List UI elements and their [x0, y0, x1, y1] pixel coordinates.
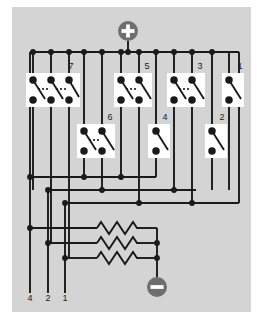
node-top-g7s2 [48, 49, 54, 55]
node-top-g7s3 [66, 49, 72, 55]
contact-bottom [66, 97, 72, 103]
contact-bottom [30, 97, 36, 103]
contact-top [136, 77, 142, 83]
contact-bottom [48, 97, 54, 103]
ellipsis-group-6 [89, 139, 99, 141]
plus-vertical [126, 25, 130, 38]
node-top-g7s1 [30, 49, 36, 55]
contact-bottom [189, 97, 195, 103]
ellipsis-group-5 [126, 88, 136, 90]
contact-top [48, 77, 54, 83]
node-r2-right [154, 240, 160, 246]
label-group-4: 4 [162, 112, 167, 122]
contact-bottom [118, 97, 124, 103]
panel-group-2 [205, 124, 227, 158]
label-group-5: 5 [144, 61, 149, 71]
ellipsis-group-3 [179, 88, 189, 90]
circuit-svg: 7 5 3 1 6 4 2 4 2 1 [0, 0, 263, 327]
contact-top [99, 128, 105, 134]
contact-bottom [136, 97, 142, 103]
label-group-3: 3 [197, 61, 202, 71]
node-bus2-left [45, 187, 51, 193]
node-r2-left [45, 240, 51, 246]
node-top-g3s2 [189, 49, 195, 55]
node-r3-right [154, 255, 160, 261]
node-bus3-left [62, 200, 68, 206]
contact-bottom [153, 148, 159, 154]
label-group-7: 7 [68, 61, 73, 71]
contact-top [30, 77, 36, 83]
node-top-positive [125, 49, 131, 55]
node-bus1-g6s1 [81, 174, 87, 180]
node-bus3-g3s2 [189, 200, 195, 206]
negative-terminal[interactable] [147, 277, 167, 297]
schematic-figure: 7 5 3 1 6 4 2 4 2 1 [0, 0, 263, 327]
label-group-1: 1 [237, 61, 242, 71]
contact-bottom [171, 97, 177, 103]
node-top-g4s1 [153, 49, 159, 55]
schematic-canvas: 7 5 3 1 6 4 2 4 2 1 [0, 0, 263, 327]
contact-bottom [226, 97, 232, 103]
label-output-1: 1 [62, 293, 67, 303]
node-bus1-left [27, 174, 33, 180]
node-bus2-g6s2 [99, 187, 105, 193]
node-top-g2s1 [209, 49, 215, 55]
node-bus2-g3s1 [171, 187, 177, 193]
node-top-g6s1 [81, 49, 87, 55]
contact-top [153, 128, 159, 134]
node-top-g3s1 [171, 49, 177, 55]
positive-terminal[interactable] [118, 21, 138, 41]
contact-top [171, 77, 177, 83]
contact-bottom [209, 148, 215, 154]
contact-top [189, 77, 195, 83]
contact-bottom [81, 148, 87, 154]
label-output-4: 4 [27, 293, 32, 303]
minus-horizontal [151, 285, 164, 289]
contact-bottom [99, 148, 105, 154]
contact-top [226, 77, 232, 83]
node-top-g5s2 [136, 49, 142, 55]
contact-top [81, 128, 87, 134]
node-r3-left [62, 255, 68, 261]
label-group-2: 2 [219, 112, 224, 122]
contact-top [209, 128, 215, 134]
label-group-6: 6 [107, 112, 112, 122]
ellipsis-group-7a [38, 88, 48, 90]
contact-top [66, 77, 72, 83]
panel-group-1 [222, 73, 244, 107]
node-top-g6s2 [99, 49, 105, 55]
node-bus1-g5s1 [118, 174, 124, 180]
contact-top [118, 77, 124, 83]
ellipsis-group-7b [56, 88, 66, 90]
node-bus3-g5s2 [136, 200, 142, 206]
node-r1-left [27, 225, 33, 231]
label-output-2: 2 [45, 293, 50, 303]
node-top-g5s1 [118, 49, 124, 55]
